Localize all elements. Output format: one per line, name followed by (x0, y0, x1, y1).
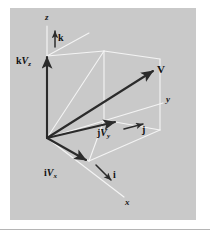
z-component-subscript: z (28, 60, 31, 68)
resultant-vector-label-V: V (157, 64, 165, 75)
figure-root: z y x k j i V kVz jVy iVx (0, 0, 210, 234)
y-component-label: jVy (97, 128, 110, 140)
unit-vector-label-j: j (142, 125, 145, 135)
wireframe-box (47, 33, 160, 161)
unit-vector-label-k: k (58, 33, 64, 43)
box-edge-bottom-back (104, 120, 160, 130)
z-component-label: kVz (16, 56, 31, 68)
vectors (47, 57, 153, 160)
y-component-subscript: y (107, 132, 110, 140)
x-component-subscript: x (53, 172, 57, 180)
box-edge-top-back (104, 51, 160, 59)
box-edge-vertical-front-left (47, 51, 104, 138)
axis-label-z: z (45, 13, 49, 22)
x-component-label: iVx (44, 168, 57, 180)
axis-label-y: y (166, 95, 170, 104)
axis-label-x: x (125, 198, 130, 207)
vector-diagram-graphic (0, 0, 210, 234)
vector-iVx (47, 138, 86, 160)
y-component-magnitude: V (100, 127, 107, 138)
bottom-divider-rule (0, 229, 210, 230)
axis-line-x (47, 138, 124, 197)
unit-vector-label-i: i (113, 170, 116, 180)
